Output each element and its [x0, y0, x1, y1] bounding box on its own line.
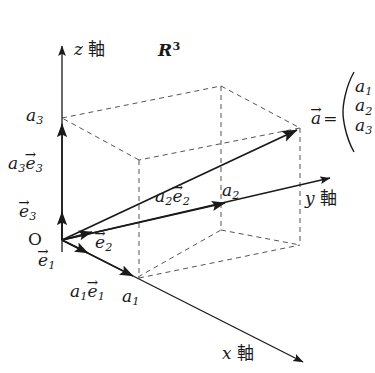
x-axis-label: x軸 — [222, 345, 254, 362]
box-top-edge-front-left — [62, 118, 139, 160]
box-bottom-edge-back-right — [221, 230, 300, 245]
axis-group — [62, 46, 330, 362]
vector-arrow-accent-icon: → — [94, 227, 105, 241]
box-top-edge-back-right — [221, 86, 300, 128]
z-axis-label: z軸 — [74, 41, 105, 58]
diagram-canvas — [0, 0, 375, 373]
column-vector-entry-3: a3 — [355, 117, 373, 136]
vector-a-equation-label: →a= — [311, 110, 337, 127]
e1-arrow — [62, 240, 88, 253]
component-a1-label: a1 — [122, 288, 140, 307]
vector-arrow-accent-icon: → — [18, 196, 29, 210]
basis-e3-label: →e3 — [19, 203, 36, 222]
vector-arrow-accent-icon: → — [310, 103, 321, 117]
column-vector-entries: a1 a2 a3 — [355, 78, 373, 136]
component-a3-label: a3 — [26, 107, 44, 126]
vector-arrow-accent-icon: → — [37, 245, 48, 259]
component-a2-label: a2 — [222, 182, 240, 201]
box-top-edge-front-right — [139, 128, 300, 160]
a2e2-vector — [62, 203, 225, 240]
box-bottom-edge-front-left — [138, 230, 221, 277]
y-axis-label: y軸 — [305, 190, 337, 207]
vector-arrow-accent-icon: → — [25, 148, 36, 162]
scaled-basis-a1e1-label: a1→e1 — [70, 283, 105, 302]
basis-e2-label: →e2 — [95, 234, 112, 253]
scaled-basis-a3e3-label: a3→e3 — [8, 155, 43, 174]
scaled-basis-a2e2-label: a2→e2 — [155, 188, 190, 207]
vector-arrow-accent-icon: → — [87, 276, 98, 290]
box-bottom-edge-right — [139, 245, 300, 278]
vector-arrow-accent-icon: → — [172, 181, 183, 195]
vector-decomposition-diagram: z軸 R3 a3 a3→e3 →e3 O →e1 →e2 a1→e1 a1 a2… — [0, 0, 375, 373]
box-top-edge-back-left — [62, 86, 221, 118]
space-label-r3: R3 — [158, 41, 180, 59]
basis-e1-label: →e1 — [38, 252, 55, 271]
e1-unit-vector — [62, 240, 88, 253]
a2e2-arrow — [62, 203, 225, 240]
